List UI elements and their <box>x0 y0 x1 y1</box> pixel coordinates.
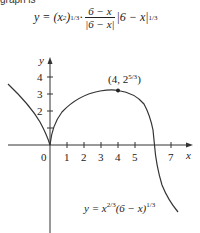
y-axis-arrow-icon <box>48 57 53 64</box>
max-point-label: (4, 25/3) <box>108 73 141 86</box>
x-axis-arrow-icon <box>186 143 193 148</box>
y-axis-label: y <box>38 54 44 66</box>
x-tick-label-2: 2 <box>81 151 87 163</box>
graph-canvas: 0 1 2 3 4 5 7 x 2 3 4 y (4, 25/3) y = x2… <box>0 0 200 233</box>
x-tick-label-5: 5 <box>132 151 138 163</box>
curve-formula-label: y = x2/3(6 − x)1/3 <box>83 201 156 215</box>
y-tick-label-4: 4 <box>37 71 43 83</box>
x-tick-label-1: 1 <box>64 151 70 163</box>
x-axis-label: x <box>185 149 191 161</box>
y-tick-label-2: 2 <box>37 105 43 117</box>
max-point-marker <box>116 89 120 93</box>
y-tick-label-3: 3 <box>37 88 43 100</box>
curve-descent <box>155 145 179 212</box>
x-tick-label-3: 3 <box>98 151 104 163</box>
x-tick-label-4: 4 <box>115 151 121 163</box>
x-tick-label-7: 7 <box>168 151 174 163</box>
origin-label: 0 <box>41 151 47 163</box>
curve-right-branch <box>50 90 155 145</box>
curve-left-branch <box>8 84 50 145</box>
